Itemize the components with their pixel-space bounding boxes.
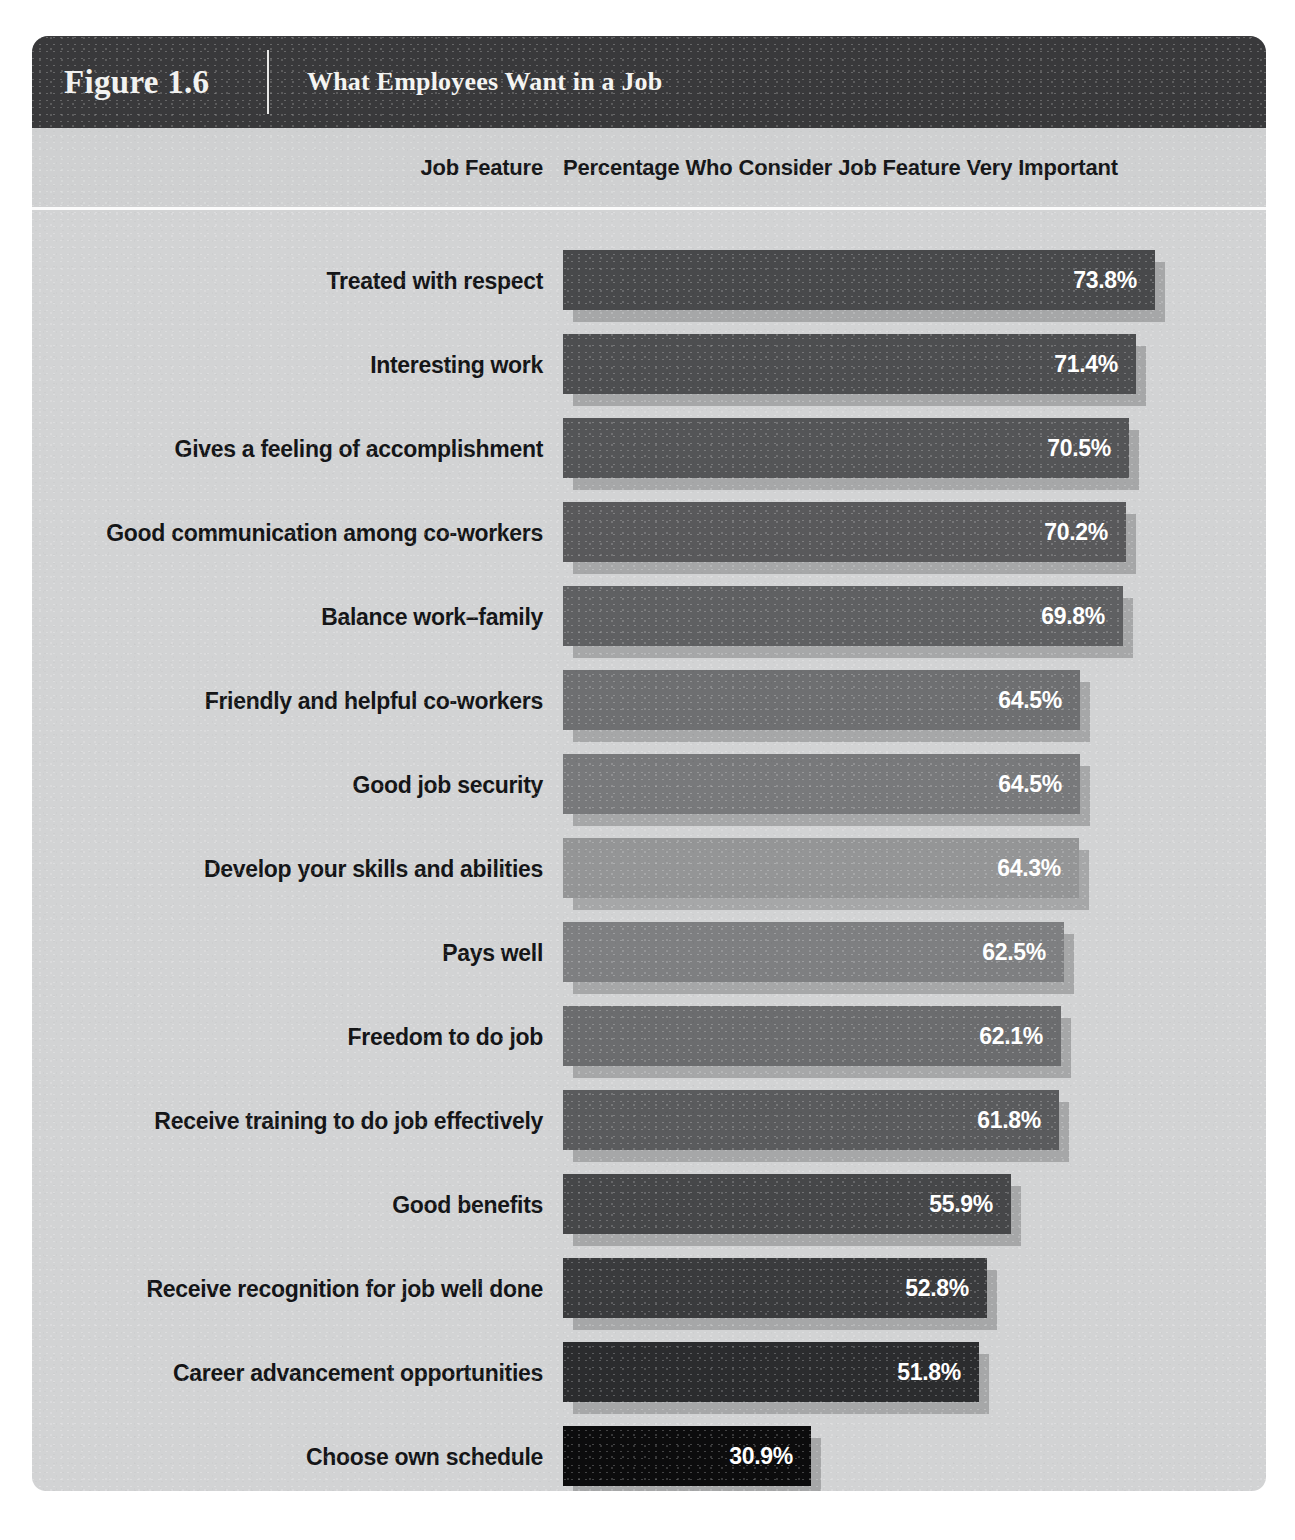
bar-value-label: 70.5% (1047, 435, 1129, 462)
bar[interactable]: 64.3% (563, 838, 1079, 898)
bar-row: Receive recognition for job well done52.… (32, 1258, 1266, 1342)
bar-container[interactable]: 64.5% (563, 670, 1092, 740)
column-header-row: Job Feature Percentage Who Consider Job … (32, 128, 1266, 208)
bar-value-label: 70.2% (1044, 519, 1126, 546)
bar-category-label: Good job security (32, 754, 543, 816)
bar-row: Freedom to do job62.1% (32, 1006, 1266, 1090)
bar-value-label: 61.8% (977, 1107, 1059, 1134)
bar-value-label: 62.1% (979, 1023, 1061, 1050)
bar-value-label: 69.8% (1041, 603, 1123, 630)
bar-row: Choose own schedule30.9% (32, 1426, 1266, 1491)
bar-value-label: 64.5% (998, 771, 1080, 798)
bar-container[interactable]: 52.8% (563, 1258, 999, 1328)
bar[interactable]: 51.8% (563, 1342, 979, 1402)
bar-chart-plot-area: Treated with respect73.8%Interesting wor… (32, 210, 1266, 1491)
bar[interactable]: 70.5% (563, 418, 1129, 478)
bar-category-label: Freedom to do job (32, 1006, 543, 1068)
bar-container[interactable]: 64.5% (563, 754, 1092, 824)
bar[interactable]: 62.5% (563, 922, 1064, 982)
bar-value-label: 64.5% (998, 687, 1080, 714)
bar-row: Balance work–family69.8% (32, 586, 1266, 670)
bar-category-label: Treated with respect (32, 250, 543, 312)
bar-row: Treated with respect73.8% (32, 250, 1266, 334)
bar-value-label: 55.9% (929, 1191, 1011, 1218)
bar-category-label: Receive recognition for job well done (32, 1258, 543, 1320)
bar-container[interactable]: 55.9% (563, 1174, 1023, 1244)
bar-row: Good job security64.5% (32, 754, 1266, 838)
bar-container[interactable]: 62.1% (563, 1006, 1073, 1076)
bar-container[interactable]: 64.3% (563, 838, 1091, 908)
bar-category-label: Good communication among co-workers (32, 502, 543, 564)
column-header-job-feature: Job Feature (32, 155, 543, 181)
bar-category-label: Choose own schedule (32, 1426, 543, 1488)
bar-category-label: Develop your skills and abilities (32, 838, 543, 900)
bar-value-label: 64.3% (997, 855, 1079, 882)
bar[interactable]: 52.8% (563, 1258, 987, 1318)
bar-value-label: 62.5% (982, 939, 1064, 966)
bar-container[interactable]: 71.4% (563, 334, 1148, 404)
bar-row: Develop your skills and abilities64.3% (32, 838, 1266, 922)
bar-row: Good benefits55.9% (32, 1174, 1266, 1258)
bar[interactable]: 64.5% (563, 670, 1080, 730)
bar[interactable]: 55.9% (563, 1174, 1011, 1234)
bar-container[interactable]: 69.8% (563, 586, 1135, 656)
bar-category-label: Balance work–family (32, 586, 543, 648)
bar[interactable]: 30.9% (563, 1426, 811, 1486)
bar-container[interactable]: 30.9% (563, 1426, 823, 1491)
figure-header: Figure 1.6 What Employees Want in a Job (32, 36, 1266, 128)
bar-category-label: Receive training to do job effectively (32, 1090, 543, 1152)
bar[interactable]: 71.4% (563, 334, 1136, 394)
bar-row: Gives a feeling of accomplishment70.5% (32, 418, 1266, 502)
bar-container[interactable]: 73.8% (563, 250, 1167, 320)
column-header-percentage: Percentage Who Consider Job Feature Very… (563, 155, 1118, 181)
bar-container[interactable]: 62.5% (563, 922, 1076, 992)
figure-number: Figure 1.6 (32, 64, 267, 101)
bar-category-label: Gives a feeling of accomplishment (32, 418, 543, 480)
bar-value-label: 73.8% (1073, 267, 1155, 294)
bar-value-label: 30.9% (729, 1443, 811, 1470)
bar-container[interactable]: 70.2% (563, 502, 1138, 572)
bar[interactable]: 70.2% (563, 502, 1126, 562)
bar[interactable]: 61.8% (563, 1090, 1059, 1150)
bar[interactable]: 64.5% (563, 754, 1080, 814)
bar-container[interactable]: 70.5% (563, 418, 1141, 488)
bar-row: Pays well62.5% (32, 922, 1266, 1006)
bar-row: Interesting work71.4% (32, 334, 1266, 418)
figure-title: What Employees Want in a Job (269, 67, 662, 97)
bar-category-label: Good benefits (32, 1174, 543, 1236)
bar-row: Receive training to do job effectively61… (32, 1090, 1266, 1174)
figure-card: Figure 1.6 What Employees Want in a Job … (32, 36, 1266, 1491)
bar-row: Career advancement opportunities51.8% (32, 1342, 1266, 1426)
bar-value-label: 71.4% (1054, 351, 1136, 378)
bar[interactable]: 73.8% (563, 250, 1155, 310)
bar-container[interactable]: 61.8% (563, 1090, 1071, 1160)
bar[interactable]: 69.8% (563, 586, 1123, 646)
bar-row: Friendly and helpful co-workers64.5% (32, 670, 1266, 754)
bar-row: Good communication among co-workers70.2% (32, 502, 1266, 586)
bar-container[interactable]: 51.8% (563, 1342, 991, 1412)
bar-value-label: 51.8% (897, 1359, 979, 1386)
bar[interactable]: 62.1% (563, 1006, 1061, 1066)
bar-category-label: Interesting work (32, 334, 543, 396)
bar-category-label: Pays well (32, 922, 543, 984)
bar-category-label: Career advancement opportunities (32, 1342, 543, 1404)
bar-category-label: Friendly and helpful co-workers (32, 670, 543, 732)
bar-value-label: 52.8% (905, 1275, 987, 1302)
